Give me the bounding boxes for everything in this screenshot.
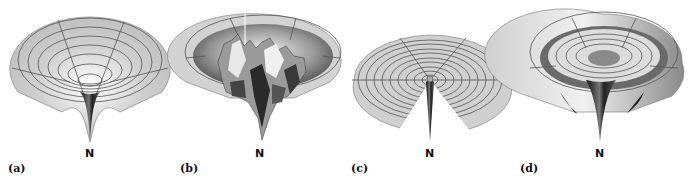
panel-label-a: (a) xyxy=(8,162,26,175)
panel-label-b: (b) xyxy=(180,162,198,175)
figure-canvas: N (a) N (b) xyxy=(0,0,689,181)
panel-a: N (a) xyxy=(8,17,170,175)
panel-label-d: (d) xyxy=(520,162,538,175)
funnel-surface-b xyxy=(167,2,341,140)
moat-surface-d xyxy=(485,9,684,142)
panel-label-c: (c) xyxy=(351,162,368,175)
point-label-n: N xyxy=(595,147,604,160)
point-label-n: N xyxy=(255,147,264,160)
panel-d: N (d) xyxy=(485,9,684,175)
point-label-n: N xyxy=(425,147,434,160)
funnel-surface-a xyxy=(10,17,171,142)
panel-b: N (b) xyxy=(167,2,341,175)
point-label-n: N xyxy=(85,147,94,160)
